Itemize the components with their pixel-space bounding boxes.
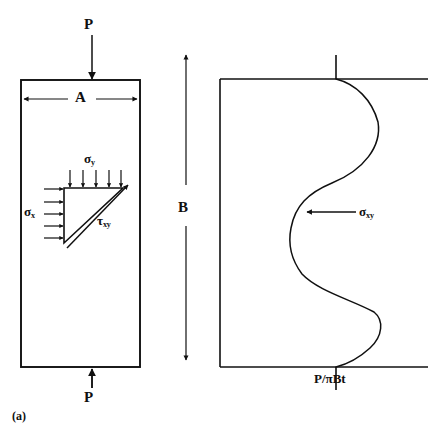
tau-xy-label: τxy (97, 214, 111, 229)
sigma-y-arrows (70, 170, 121, 187)
figure-drawing (0, 0, 430, 442)
sigma-y-label: σy (84, 152, 95, 167)
tau-xy-subscript: xy (103, 220, 111, 229)
stress-element (64, 185, 128, 248)
sigma-xy-label: σxy (359, 205, 374, 220)
dimension-label-b: B (178, 200, 188, 215)
sigma-xy-subscript: xy (366, 211, 374, 220)
sigma-xy-curve (290, 79, 381, 367)
plot-axes (220, 55, 428, 390)
sigma-x-arrows (44, 189, 63, 238)
load-label-top: P (84, 17, 93, 32)
figure-a: P P A B σy σx τxy σxy P/πBt (a) (0, 0, 430, 442)
sigma-x-subscript: x (31, 211, 35, 220)
load-label-bottom: P (84, 390, 93, 405)
figure-caption: (a) (12, 410, 26, 422)
plate-outline (21, 80, 140, 367)
sigma-x-label: σx (24, 205, 35, 220)
sigma-y-subscript: y (91, 158, 95, 167)
scale-label: P/πBt (314, 372, 346, 385)
dimension-label-a: A (75, 90, 86, 105)
